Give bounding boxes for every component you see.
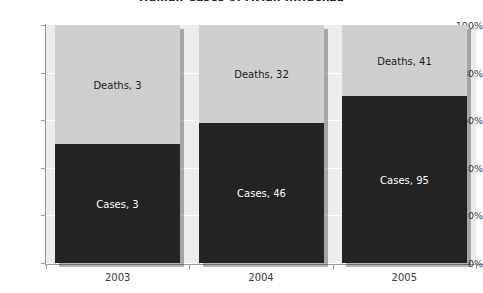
x-axis-tick-mark (46, 264, 47, 269)
chart-title: Human Cases of Avian Influenza (0, 0, 483, 4)
x-axis-tick-label: 2003 (105, 272, 130, 283)
x-axis-tick-mark (189, 264, 190, 269)
bar-2004[interactable]: Deaths, 32Cases, 46 (199, 25, 324, 263)
data-label-deaths-2005: Deaths, 41 (342, 55, 467, 66)
data-label-cases-2005: Cases, 95 (342, 174, 467, 185)
y-axis-tick-mark (41, 73, 46, 74)
y-axis-tick-mark (41, 168, 46, 169)
x-axis-tick-label: 2004 (248, 272, 273, 283)
y-axis-tick-mark (41, 25, 46, 26)
bar-2005[interactable]: Deaths, 41Cases, 95 (342, 25, 467, 263)
x-axis-tick-mark (333, 264, 334, 269)
bar-2003[interactable]: Deaths, 3Cases, 3 (55, 25, 180, 263)
y-axis-tick-mark (41, 215, 46, 216)
data-label-deaths-2003: Deaths, 3 (55, 79, 180, 90)
y-axis-tick-mark (41, 120, 46, 121)
x-axis-tick-mark (476, 264, 477, 269)
data-label-deaths-2004: Deaths, 32 (199, 68, 324, 79)
chart-container: Human Cases of Avian Influenza 0%20%40%6… (0, 0, 483, 293)
data-label-cases-2004: Cases, 46 (199, 187, 324, 198)
x-axis-tick-label: 2005 (392, 272, 417, 283)
data-label-cases-2003: Cases, 3 (55, 198, 180, 209)
y-axis-line (45, 24, 46, 265)
